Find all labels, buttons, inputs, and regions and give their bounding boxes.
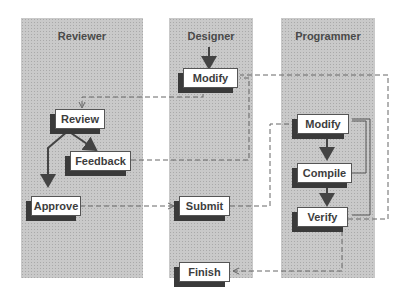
node-feedback[interactable]: Feedback: [70, 151, 131, 171]
node-label: Compile: [297, 163, 352, 183]
node-label: Modify: [297, 114, 349, 134]
node-finish[interactable]: Finish: [179, 262, 230, 282]
node-designer-modify[interactable]: Modify: [183, 68, 238, 88]
node-label: Verify: [297, 207, 348, 227]
node-label: Submit: [179, 196, 230, 216]
edge-verify-finish: [233, 231, 342, 271]
node-verify[interactable]: Verify: [297, 207, 348, 227]
node-label: Feedback: [70, 151, 131, 171]
node-label: Modify: [183, 68, 238, 88]
node-review[interactable]: Review: [55, 109, 105, 129]
edge-verify-modify: [352, 119, 370, 215]
node-label: Finish: [179, 262, 230, 282]
edge-submit-modify: [230, 124, 290, 206]
node-submit[interactable]: Submit: [179, 196, 230, 216]
node-compile[interactable]: Compile: [297, 163, 352, 183]
node-programmer-modify[interactable]: Modify: [297, 114, 349, 134]
node-label: Review: [55, 109, 105, 129]
edge-compile-modify: [352, 121, 366, 173]
node-approve[interactable]: Approve: [31, 196, 81, 216]
node-label: Approve: [31, 196, 81, 216]
